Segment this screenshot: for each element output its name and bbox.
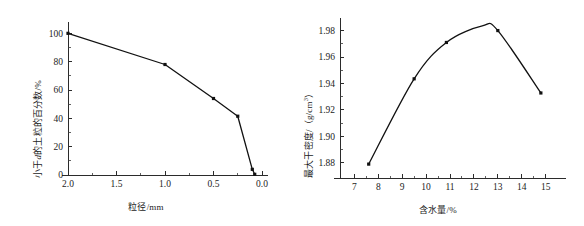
y-title-prefix-right: 最大干密度/（g/cm: [304, 101, 314, 178]
y-tick-label: 40: [54, 114, 64, 124]
x-tick-label: 0.5: [208, 179, 220, 189]
x-tick-label: 9: [400, 182, 405, 192]
x-tick-label: 14: [517, 182, 527, 192]
y-tick-label: 1.98: [318, 26, 335, 36]
x-tick-label: 2.0: [62, 179, 74, 189]
data-series-line: [369, 23, 541, 164]
x-tick-label: 0.0: [256, 179, 268, 189]
chart-panel-grain-size: 0204060801002.01.51.00.50.0 粒径/mm 小于d的土粒…: [0, 0, 292, 226]
figure-root: 0204060801002.01.51.00.50.0 粒径/mm 小于d的土粒…: [0, 0, 584, 226]
data-point-marker: [251, 168, 254, 171]
data-point-marker: [253, 173, 256, 176]
y-tick-label: 1.90: [318, 132, 335, 142]
y-tick-label: 1.96: [318, 52, 335, 62]
y-tick-label: 100: [49, 29, 64, 39]
data-point-marker: [445, 41, 448, 44]
y-title-superscript-right: 3: [302, 98, 309, 101]
y-title-italic-left: d: [33, 155, 43, 160]
y-tick-label: 80: [54, 57, 64, 67]
y-title-prefix-left: 小于: [33, 160, 43, 178]
x-tick-label: 15: [541, 182, 551, 192]
data-point-marker: [212, 97, 215, 100]
y-axis-title-right: 最大干密度/（g/cm3）: [302, 89, 315, 178]
data-point-marker: [539, 91, 542, 94]
compaction-curve-plot: 1.881.901.921.941.961.98789101112131415: [292, 0, 584, 226]
x-axis-title-left: 粒径/mm: [0, 200, 292, 213]
data-series-line: [68, 33, 255, 174]
x-tick-label: 13: [493, 182, 503, 192]
y-axis-title-left: 小于d的土粒的百分数/%: [31, 80, 44, 178]
y-tick-label: 20: [54, 142, 64, 152]
data-point-marker: [163, 63, 166, 66]
x-axis-title-right: 含水量/%: [292, 203, 584, 216]
data-point-marker: [496, 29, 499, 32]
y-title-suffix-right: ）: [304, 89, 314, 98]
x-tick-label: 12: [469, 182, 479, 192]
y-tick-label: 1.92: [318, 105, 335, 115]
data-point-marker: [413, 77, 416, 80]
y-tick-label: 1.94: [318, 79, 335, 89]
data-point-marker: [236, 115, 239, 118]
x-tick-label: 10: [421, 182, 431, 192]
x-tick-label: 1.5: [111, 179, 123, 189]
y-tick-label: 60: [54, 85, 64, 95]
x-tick-label: 8: [376, 182, 381, 192]
y-title-suffix-left: 的土粒的百分数/%: [33, 80, 43, 155]
x-tick-label: 7: [352, 182, 357, 192]
y-tick-label: 1.88: [318, 158, 335, 168]
x-tick-label: 1.0: [159, 179, 171, 189]
data-point-marker: [66, 32, 69, 35]
chart-panel-compaction: 1.881.901.921.941.961.98789101112131415 …: [292, 0, 584, 226]
data-point-marker: [367, 163, 370, 166]
x-tick-label: 11: [445, 182, 454, 192]
